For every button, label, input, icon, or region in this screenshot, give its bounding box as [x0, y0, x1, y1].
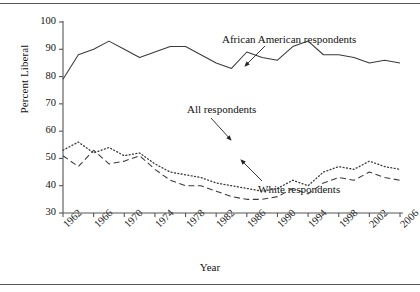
- ann-white-arrow: [241, 160, 262, 181]
- series-line-dashed: [63, 150, 400, 199]
- series-line-dotted: [63, 142, 400, 191]
- series-line-solid: [63, 41, 400, 79]
- ann-all-arrow: [211, 118, 231, 140]
- figure-container: Percent Liberal Year 30405060708090100 1…: [0, 0, 420, 292]
- chart-plot-area: [0, 0, 420, 292]
- ann-african-american-arrow: [245, 46, 265, 66]
